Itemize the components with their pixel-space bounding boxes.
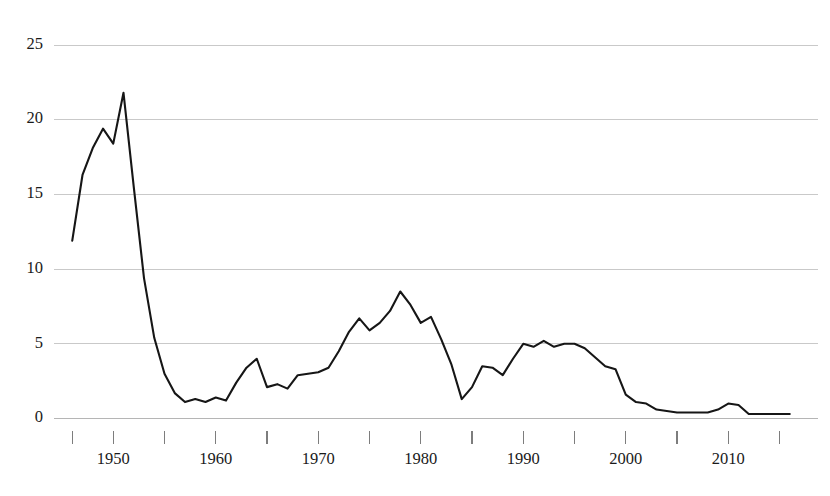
y-axis-tick-label: 5 [35, 333, 43, 352]
y-axis-tick-label: 15 [27, 183, 44, 202]
x-axis-tick-marks [72, 431, 779, 444]
x-axis-tick-labels: 1950196019701980199020002010 [97, 449, 745, 468]
y-axis-tick-label: 20 [27, 108, 44, 127]
data-series-line [72, 93, 790, 414]
y-axis-tick-label: 0 [35, 407, 43, 426]
gridlines [54, 45, 818, 419]
y-axis-tick-label: 10 [27, 258, 44, 277]
y-axis-tick-labels: 0510152025 [27, 34, 44, 427]
chart-canvas: 0510152025 1950196019701980199020002010 [0, 0, 830, 496]
x-axis-tick-label: 2010 [712, 449, 745, 468]
x-axis-tick-label: 1980 [404, 449, 437, 468]
x-axis-tick-label: 1950 [97, 449, 130, 468]
x-axis-tick-label: 1970 [302, 449, 335, 468]
x-axis-tick-label: 2000 [609, 449, 642, 468]
line-chart: 0510152025 1950196019701980199020002010 [0, 0, 830, 496]
x-axis-tick-label: 1990 [507, 449, 540, 468]
y-axis-tick-label: 25 [27, 34, 44, 53]
x-axis-tick-label: 1960 [199, 449, 232, 468]
